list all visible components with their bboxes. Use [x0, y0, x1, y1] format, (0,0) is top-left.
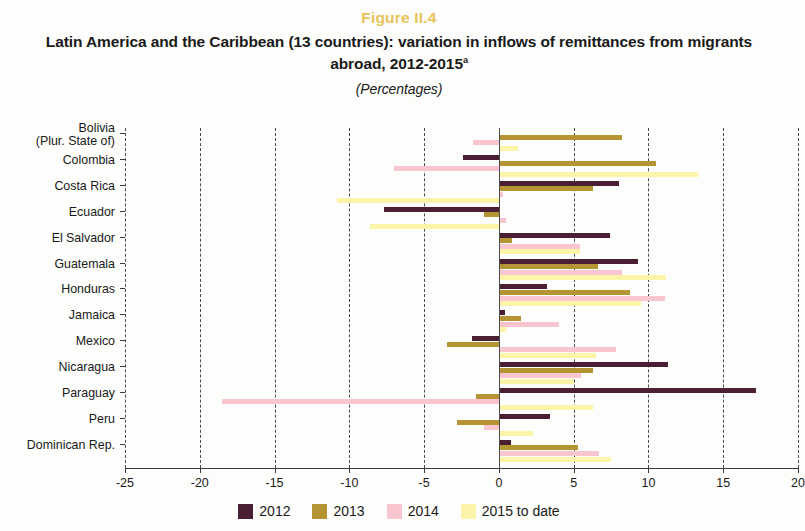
bar-2014 — [499, 347, 616, 352]
bar-2015-to-date — [499, 379, 574, 384]
y-axis-label-costa-rica: Costa Rica — [54, 180, 115, 193]
x-axis-tick — [275, 468, 276, 473]
gridline — [424, 128, 425, 468]
bar-2013 — [499, 368, 593, 373]
bar-2013 — [499, 135, 622, 140]
bar-2014 — [499, 244, 580, 249]
x-axis-tick-label: -20 — [191, 476, 209, 490]
gridline — [798, 128, 799, 468]
bar-2014 — [394, 166, 499, 171]
bar-2015-to-date — [499, 146, 518, 151]
y-axis-label-colombia: Colombia — [63, 154, 115, 167]
bar-2014 — [484, 425, 499, 430]
legend-label: 2015 to date — [482, 503, 560, 519]
y-axis-tick — [120, 263, 125, 264]
y-axis-label-dominican-rep: Dominican Rep. — [27, 439, 115, 452]
y-axis-tick — [120, 211, 125, 212]
figure-title-footnote-marker: a — [463, 55, 468, 65]
bar-2012 — [472, 336, 499, 341]
x-axis-line — [125, 468, 798, 469]
x-axis-tick — [574, 468, 575, 473]
bar-2015-to-date — [499, 353, 596, 358]
bar-2013 — [499, 264, 598, 269]
bar-2013 — [447, 342, 499, 347]
x-axis-tick — [648, 468, 649, 473]
bar-2013 — [484, 212, 499, 217]
legend-item-2012: 2012 — [238, 503, 290, 519]
x-axis-tick-label: -10 — [340, 476, 358, 490]
x-axis-tick-label: -5 — [419, 476, 430, 490]
y-axis-label-bolivia: Bolivia(Plur. State of) — [36, 122, 115, 149]
bar-2012 — [499, 259, 638, 264]
legend-swatch — [387, 504, 402, 519]
gridline — [275, 128, 276, 468]
x-axis-tick-label: -25 — [116, 476, 134, 490]
bar-2013 — [476, 394, 498, 399]
chart-legend: 2012201320142015 to date — [0, 503, 798, 519]
y-axis-label-mexico: Mexico — [76, 335, 115, 348]
y-axis-tick — [120, 392, 125, 393]
bar-2013 — [499, 238, 512, 243]
y-axis-tick — [120, 444, 125, 445]
gridline — [125, 128, 126, 468]
x-axis-tick — [723, 468, 724, 473]
x-axis-tick-label: 0 — [495, 476, 502, 490]
bar-2012 — [499, 284, 547, 289]
gridline — [723, 128, 724, 468]
figure-subtitle: (Percentages) — [0, 81, 798, 97]
bar-2014 — [499, 218, 506, 223]
gridline — [349, 128, 350, 468]
bar-2013 — [499, 186, 593, 191]
figure-title-text: Latin America and the Caribbean (13 coun… — [46, 33, 752, 72]
bar-2013 — [499, 316, 521, 321]
legend-item-2013: 2013 — [312, 503, 364, 519]
legend-item-2014: 2014 — [387, 503, 439, 519]
bar-2014 — [222, 399, 499, 404]
bar-2015-to-date — [499, 431, 533, 436]
bar-2013 — [457, 420, 499, 425]
legend-swatch — [238, 504, 253, 519]
bar-2013 — [499, 445, 578, 450]
legend-label: 2013 — [333, 503, 364, 519]
bar-2015-to-date — [499, 249, 580, 254]
y-axis-tick — [120, 340, 125, 341]
x-axis-tick — [499, 468, 500, 473]
figure-header: Figure II.4 Latin America and the Caribb… — [0, 0, 798, 97]
bar-2015-to-date — [499, 172, 698, 177]
bar-2012 — [499, 362, 668, 367]
x-axis-tick — [798, 468, 799, 473]
gridline — [200, 128, 201, 468]
y-axis-tick — [120, 366, 125, 367]
y-axis-label-guatemala: Guatemala — [54, 258, 115, 271]
figure-number: Figure II.4 — [0, 9, 798, 27]
x-axis-tick-label: 15 — [716, 476, 730, 490]
bar-2012 — [463, 155, 499, 160]
bar-2015-to-date — [337, 198, 499, 203]
zero-axis-line — [499, 128, 500, 468]
y-axis-label-paraguay: Paraguay — [62, 387, 115, 400]
y-axis-label-jamaica: Jamaica — [69, 309, 115, 322]
y-axis-label-nicaragua: Nicaragua — [59, 361, 115, 374]
y-axis-tick — [120, 237, 125, 238]
page-title: Latin America and the Caribbean (13 coun… — [0, 31, 798, 75]
bar-2014 — [473, 140, 498, 145]
x-axis-tick — [200, 468, 201, 473]
bar-2014 — [499, 451, 599, 456]
bar-2014 — [499, 373, 581, 378]
legend-item-2015-to-date: 2015 to date — [461, 503, 560, 519]
bar-2015-to-date — [370, 224, 499, 229]
bar-2012 — [384, 207, 499, 212]
bar-2012 — [499, 181, 619, 186]
bar-2013 — [499, 161, 656, 166]
y-axis-tick — [120, 288, 125, 289]
y-axis-label-ecuador: Ecuador — [69, 206, 115, 219]
bar-2013 — [499, 290, 631, 295]
x-axis-tick — [125, 468, 126, 473]
x-axis-tick-label: 20 — [791, 476, 805, 490]
bar-2015-to-date — [499, 457, 611, 462]
bar-2014 — [499, 296, 665, 301]
x-axis-tick — [424, 468, 425, 473]
bar-2015-to-date — [499, 301, 641, 306]
bar-2015-to-date — [499, 405, 593, 410]
legend-swatch — [461, 504, 476, 519]
